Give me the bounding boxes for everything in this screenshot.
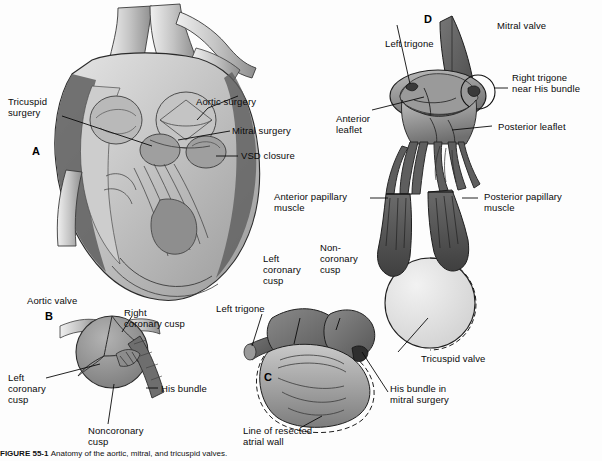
label-aortic-valve: Aortic valve xyxy=(27,295,77,306)
figure-caption: FIGURE 55-1 Anatomy of the aortic, mitra… xyxy=(0,449,602,461)
label-left-coronary-cusp-b: Left coronary cusp xyxy=(8,372,46,405)
label-right-coronary-cusp: Right coronary cusp xyxy=(124,307,185,329)
cardiac-anatomy-figure xyxy=(0,0,602,461)
label-mitral-surgery: Mitral surgery xyxy=(232,125,291,136)
label-mitral-valve-d: Mitral valve xyxy=(497,20,546,31)
mitral-orifice xyxy=(140,134,180,166)
panel-letter-a: A xyxy=(32,145,40,157)
label-posterior-leaflet-d: Posterior leaflet xyxy=(498,121,566,132)
c-trigone-cut-end xyxy=(244,344,256,360)
label-left-trigone-c: Left trigone xyxy=(216,303,265,314)
panel-letter-b: B xyxy=(45,310,53,322)
panel-letter-c: C xyxy=(264,371,272,383)
caption-label: FIGURE 55-1 xyxy=(0,449,48,458)
tricuspid-orifice xyxy=(90,96,142,144)
label-anterior-leaflet-d: Anterior leaflet xyxy=(336,113,370,135)
label-his-bundle-b: His bundle xyxy=(161,383,207,394)
label-aortic-surgery: Aortic surgery xyxy=(196,96,256,107)
label-his-bundle-mitral-c: His bundle in mitral surgery xyxy=(390,383,449,405)
label-anterior-papillary-muscle-d: Anterior papillary muscle xyxy=(274,191,347,213)
label-tricuspid-valve-c: Tricuspid valve xyxy=(421,353,486,364)
label-noncoronary-cusp-b: Noncoronary cusp xyxy=(88,425,144,447)
label-noncoronary-cusp-c: Non- coronary cusp xyxy=(320,242,358,275)
d-right-trigone-marker xyxy=(468,86,480,97)
c-his-bundle-notch xyxy=(352,346,368,362)
label-left-coronary-cusp-c: Left coronary cusp xyxy=(263,253,301,286)
panel-letter-d: D xyxy=(424,13,432,25)
label-posterior-papillary-muscle-d: Posterior papillary muscle xyxy=(484,191,562,213)
label-tricuspid-surgery: Tricuspid surgery xyxy=(8,96,47,118)
label-right-trigone-d: Right trigone near His bundle xyxy=(512,72,580,94)
vsd-region xyxy=(186,136,226,168)
caption-text: Anatomy of the aortic, mitral, and tricu… xyxy=(51,449,228,458)
label-vsd-closure: VSD closure xyxy=(241,150,295,161)
label-left-trigone-d: Left trigone xyxy=(385,38,434,49)
label-line-resected-atrial-wall-c: Line of resected atrial wall xyxy=(243,425,312,447)
